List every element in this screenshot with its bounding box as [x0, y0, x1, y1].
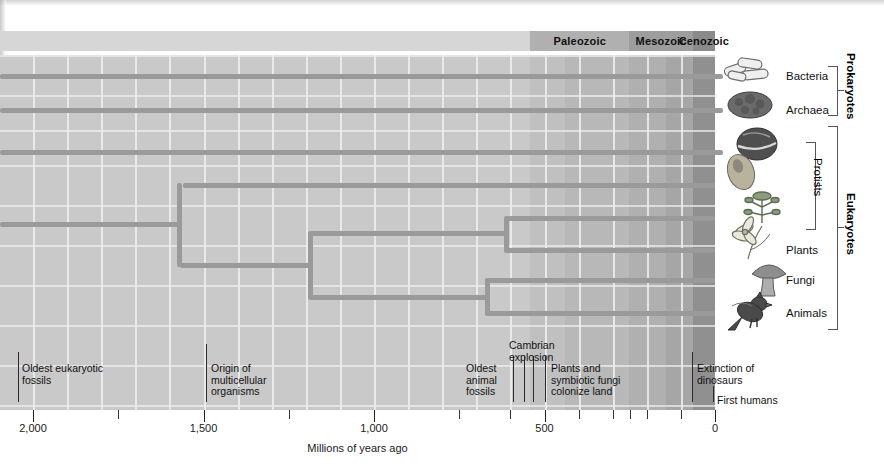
axis-tick-2000: [33, 410, 34, 422]
stem-plants-protist: [311, 231, 506, 236]
stem-eukaryote-root: [0, 222, 180, 227]
axis-minor-tick-200: [647, 410, 648, 419]
branch-bacteria: [0, 74, 723, 79]
group-label-eukaryotes: Eukaryotes: [845, 193, 857, 255]
axis-minor-tick-100: [681, 410, 682, 419]
annotation-first-humans: First humans: [717, 395, 778, 407]
branch-plants: [507, 248, 715, 253]
group-label-prokaryotes: Prokaryotes: [845, 53, 857, 119]
axis-minor-tick-600: [510, 410, 511, 419]
taxon-label-archaea: Archaea: [786, 104, 829, 116]
branch-archaea: [0, 108, 723, 113]
axis-tick-1000: [374, 410, 375, 422]
branch-fungi: [488, 278, 715, 283]
archaea-cell-illustration: [726, 90, 774, 124]
leader-first-humans: [713, 386, 714, 402]
axis-minor-tick-1750: [118, 410, 119, 419]
bracket-stem-prokaryotes: [837, 90, 844, 91]
rod-bacteria-illustration: [722, 56, 774, 86]
branch-animals: [488, 311, 715, 316]
phylogenetic-timeline-figure: PaleozoicMesozoicCenozoic BacteriaArchae…: [0, 0, 884, 467]
axis-minor-tick-300: [613, 410, 614, 419]
leader-origin-of-multicellular-organisms: [206, 344, 207, 402]
axis-tick-0: [715, 410, 716, 422]
annotation-plants-and-symbiotic-fungi-colonize-land: Plants and symbiotic fungi colonize land: [551, 363, 620, 398]
time-axis: Millions of years ago 2,0001,5001,000500…: [0, 410, 884, 467]
era-cenozoic: Cenozoic: [693, 31, 715, 51]
axis-minor-tick-400: [579, 410, 580, 419]
annotation-extinction-of-dinosaurs: Extinction of dinosaurs: [697, 363, 754, 386]
axis-tick-label-500: 500: [535, 422, 553, 434]
page-top-shadow: [0, 0, 884, 6]
axis-tick-label-1000: 1,000: [360, 422, 388, 434]
taxon-label-bacteria: Bacteria: [786, 70, 828, 82]
taxon-label-animals: Animals: [786, 307, 827, 319]
taxon-label-fungi: Fungi: [786, 274, 815, 286]
axis-tick-label-0: 0: [712, 422, 718, 434]
axis-minor-tick-1250: [289, 410, 290, 419]
annotation-oldest-eukaryotic-fossils: Oldest eukaryotic fossils: [22, 363, 103, 386]
geologic-era-bar: PaleozoicMesozoicCenozoic: [0, 31, 715, 51]
bird-illustration: [726, 290, 778, 336]
annotation-oldest-animal-fossils: Oldest animal fossils: [466, 363, 497, 398]
stem-crown-eukaryotes: [180, 263, 311, 268]
bracket-eukaryotes: [828, 126, 838, 330]
taxon-label-plants: Plants: [786, 244, 818, 256]
branch-protist2: [183, 183, 715, 188]
axis-minor-tick-750: [459, 410, 460, 419]
leader-cambrian-explosion-2: [524, 356, 525, 402]
branch-protist3: [507, 216, 715, 221]
annotation-cambrian-explosion: Cambrian explosion: [509, 340, 555, 363]
axis-minor-tick-250: [630, 410, 631, 419]
bracket-stem-eukaryotes: [837, 227, 844, 228]
phylogenetic-tree: [0, 55, 715, 410]
axis-title: Millions of years ago: [0, 442, 715, 454]
stem-fungi-animal: [311, 295, 488, 300]
branch-protist1: [0, 150, 723, 155]
leader-oldest-eukaryotic-fossils: [18, 352, 19, 402]
leader-plants-and-symbiotic-fungi-colonize-land: [545, 356, 546, 402]
group-label-protists: Protists: [812, 158, 824, 196]
annotation-origin-of-multicellular-organisms: Origin of multicellular organisms: [211, 363, 266, 398]
era-paleozoic: Paleozoic: [530, 31, 629, 51]
leader-extinction-of-dinosaurs: [692, 352, 693, 402]
axis-tick-500: [545, 410, 546, 422]
bracket-prokaryotes: [828, 66, 838, 116]
axis-tick-label-1500: 1,500: [190, 422, 218, 434]
axis-tick-1500: [204, 410, 205, 422]
axis-tick-label-2000: 2,000: [19, 422, 47, 434]
